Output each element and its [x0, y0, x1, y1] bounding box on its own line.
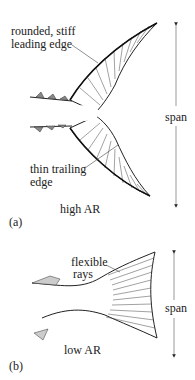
label-leading-edge-line2: leading edge: [11, 38, 72, 51]
span-label-a: span: [165, 111, 187, 124]
span-label-b: span: [165, 302, 187, 315]
diagram-canvas: [0, 0, 195, 380]
label-trailing-edge-line2: edge: [30, 176, 53, 189]
caption-high-ar: high AR: [60, 203, 100, 216]
label-flexible-rays-line2: rays: [73, 268, 93, 281]
caption-low-ar: low AR: [64, 344, 101, 357]
panel-letter-a: (a): [9, 216, 22, 229]
panel-letter-b: (b): [9, 360, 23, 373]
